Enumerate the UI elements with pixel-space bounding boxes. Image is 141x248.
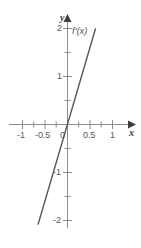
x-tick-label-neg0-5: -0.5 bbox=[35, 131, 50, 140]
plot-canvas bbox=[0, 0, 141, 248]
x-tick-label-1: 1 bbox=[110, 131, 115, 140]
y-tick-label-neg2: -2 bbox=[53, 216, 61, 225]
y-tick-label-1: 1 bbox=[57, 72, 62, 81]
y-axis-arrow-icon bbox=[64, 14, 72, 22]
y-tick-label-2: 2 bbox=[57, 24, 62, 33]
x-axis-label: x bbox=[129, 128, 134, 138]
x-tick-label-neg1: -1 bbox=[17, 131, 25, 140]
y-tick-label-neg1: -1 bbox=[53, 168, 61, 177]
x-tick-label-zero: 0 bbox=[60, 131, 65, 140]
y-axis-label: y bbox=[60, 13, 64, 23]
x-tick-label-0-5: 0.5 bbox=[83, 131, 95, 140]
curve-label-f-prime: f'(x) bbox=[72, 26, 88, 36]
derivative-line-series bbox=[38, 29, 95, 224]
derivative-graph-figure: -1 -0.5 0 0.5 1 2 1 -1 -2 y x f'(x) bbox=[0, 0, 141, 248]
